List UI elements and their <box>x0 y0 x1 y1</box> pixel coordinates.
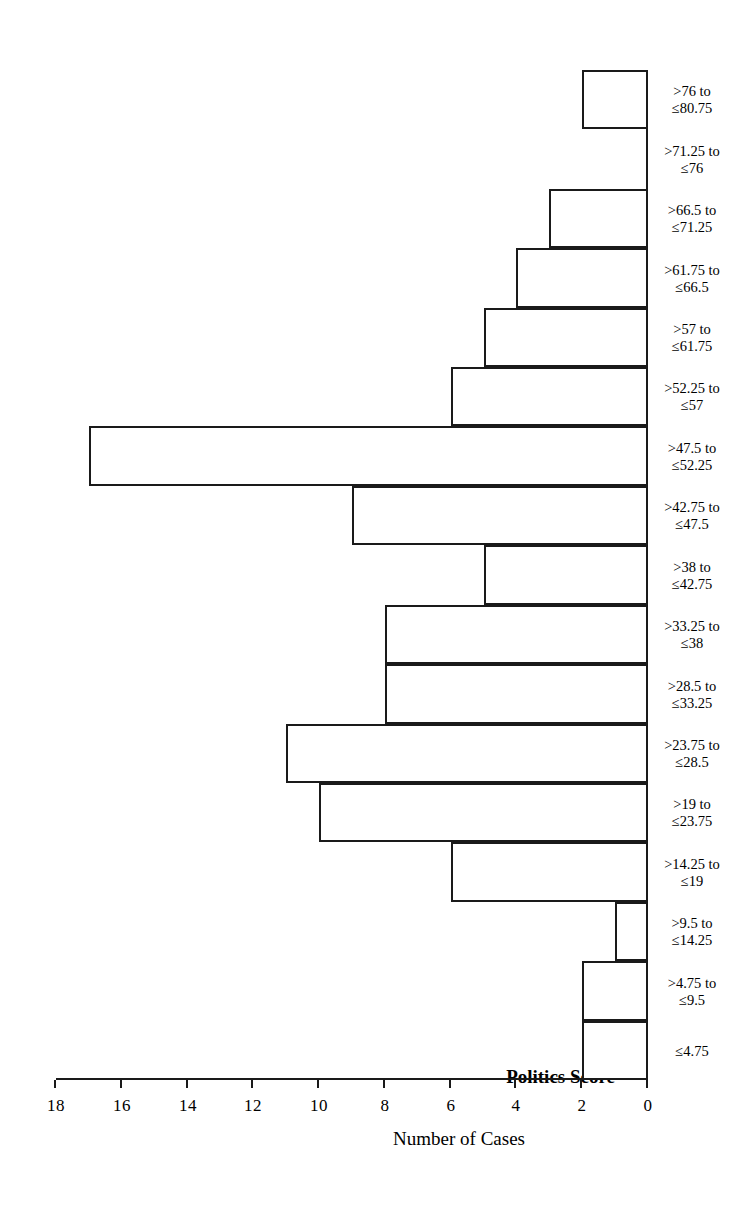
category-label-line: ≤52.25 <box>672 456 713 472</box>
category-label-line: ≤38 <box>681 634 703 650</box>
value-tick <box>251 1080 253 1088</box>
value-tick-label: 4 <box>496 1096 536 1116</box>
y-axis-label: Number of Cases <box>393 1128 525 1150</box>
category-label-line: ≤47.5 <box>675 516 708 532</box>
category-label-line: >47.5 to <box>668 440 716 456</box>
bar <box>582 70 648 129</box>
category-label: >47.5 to≤52.25 <box>652 426 732 485</box>
category-label-line: ≤42.75 <box>672 575 713 591</box>
value-tick <box>54 1080 56 1088</box>
category-label-line: >61.75 to <box>664 262 720 278</box>
bar <box>89 426 648 485</box>
category-label-line: ≤14.25 <box>672 931 713 947</box>
bar <box>451 842 648 901</box>
category-label-line: >76 to <box>673 83 711 99</box>
category-label: >9.5 to≤14.25 <box>652 902 732 961</box>
value-tick-label: 14 <box>168 1096 208 1116</box>
category-label-line: >38 to <box>673 559 711 575</box>
category-label: >42.75 to≤47.5 <box>652 486 732 545</box>
category-label-line: ≤76 <box>681 159 703 175</box>
value-tick <box>449 1080 451 1088</box>
category-label-line: >14.25 to <box>664 856 720 872</box>
category-label-line: >4.75 to <box>668 975 716 991</box>
category-label-line: >33.25 to <box>664 618 720 634</box>
value-tick-label: 16 <box>102 1096 142 1116</box>
category-label-line: >28.5 to <box>668 678 716 694</box>
bar <box>582 961 648 1020</box>
category-label: >14.25 to≤19 <box>652 842 732 901</box>
bar <box>516 248 648 307</box>
category-label-line: ≤9.5 <box>679 991 705 1007</box>
bar <box>319 783 648 842</box>
category-label-line: ≤23.75 <box>672 813 713 829</box>
bar <box>385 605 648 664</box>
category-label-line: ≤19 <box>681 872 703 888</box>
category-label: >4.75 to≤9.5 <box>652 961 732 1020</box>
bar <box>385 664 648 723</box>
category-label-line: >19 to <box>673 796 711 812</box>
bar <box>286 724 648 783</box>
value-tick-label: 12 <box>233 1096 273 1116</box>
category-label: ≤4.75 <box>652 1021 732 1080</box>
category-label-line: ≤33.25 <box>672 694 713 710</box>
value-tick <box>514 1080 516 1088</box>
category-label: >38 to≤42.75 <box>652 545 732 604</box>
category-label-line: ≤28.5 <box>675 753 708 769</box>
value-tick <box>186 1080 188 1088</box>
category-label: >23.75 to≤28.5 <box>652 724 732 783</box>
plot-area: 024681012141618 ≤4.75>4.75 to≤9.5>9.5 to… <box>56 70 648 1080</box>
value-tick <box>580 1080 582 1088</box>
category-label-line: >66.5 to <box>668 202 716 218</box>
category-label-line: >9.5 to <box>671 915 712 931</box>
category-label-line: >42.75 to <box>664 499 720 515</box>
value-tick <box>120 1080 122 1088</box>
chart-canvas: Politics Score Number of Cases 024681012… <box>0 0 735 1208</box>
category-label-line: ≤61.75 <box>672 337 713 353</box>
rotated-figure: Politics Score Number of Cases 024681012… <box>0 0 735 1208</box>
bar <box>615 902 648 961</box>
category-label-line: ≤80.75 <box>672 100 713 116</box>
bar <box>582 1021 648 1080</box>
value-tick-label: 0 <box>628 1096 668 1116</box>
bar <box>484 308 648 367</box>
category-label-line: ≤57 <box>681 397 703 413</box>
category-label: >66.5 to≤71.25 <box>652 189 732 248</box>
category-label: >19 to≤23.75 <box>652 783 732 842</box>
bar <box>352 486 648 545</box>
category-label-line: ≤66.5 <box>675 278 708 294</box>
value-axis-line <box>56 1078 648 1080</box>
value-tick-label: 8 <box>365 1096 405 1116</box>
category-label: >28.5 to≤33.25 <box>652 664 732 723</box>
bar <box>549 189 648 248</box>
category-label: >33.25 to≤38 <box>652 605 732 664</box>
value-tick <box>646 1080 648 1088</box>
category-label: >61.75 to≤66.5 <box>652 248 732 307</box>
category-label: >57 to≤61.75 <box>652 308 732 367</box>
value-tick <box>317 1080 319 1088</box>
bar <box>451 367 648 426</box>
category-label: >71.25 to≤76 <box>652 129 732 188</box>
category-label: >52.25 to≤57 <box>652 367 732 426</box>
value-tick-label: 6 <box>431 1096 471 1116</box>
bar <box>484 545 648 604</box>
category-label-line: ≤4.75 <box>675 1042 708 1058</box>
value-tick-label: 18 <box>36 1096 76 1116</box>
category-label-line: >23.75 to <box>664 737 720 753</box>
category-label-line: >57 to <box>673 321 711 337</box>
category-label-line: ≤71.25 <box>672 219 713 235</box>
category-label-line: >52.25 to <box>664 381 720 397</box>
value-tick-label: 2 <box>562 1096 602 1116</box>
value-tick <box>383 1080 385 1088</box>
category-label-line: >71.25 to <box>664 143 720 159</box>
value-tick-label: 10 <box>299 1096 339 1116</box>
category-label: >76 to≤80.75 <box>652 70 732 129</box>
